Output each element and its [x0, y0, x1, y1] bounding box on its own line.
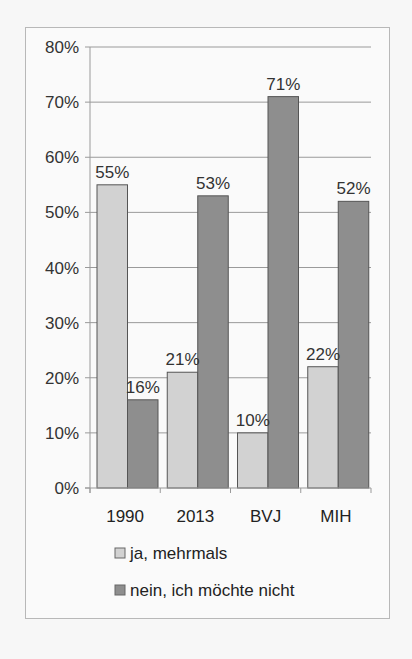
- x-category-label: 1990: [106, 507, 144, 526]
- y-tick-label: 0%: [54, 479, 79, 498]
- data-label: 10%: [236, 411, 270, 430]
- y-tick-label: 10%: [45, 424, 79, 443]
- legend-label: ja, mehrmals: [129, 544, 227, 563]
- bar-nein-ich-moechte-nicht: [268, 97, 299, 488]
- y-tick-label: 80%: [45, 38, 79, 57]
- bar-ja-mehrmals: [97, 185, 128, 488]
- data-label: 16%: [126, 378, 160, 397]
- bar-nein-ich-moechte-nicht: [128, 400, 159, 488]
- y-tick-label: 50%: [45, 203, 79, 222]
- x-category-label: 2013: [176, 507, 214, 526]
- x-category-label: BVJ: [250, 507, 281, 526]
- y-tick-label: 20%: [45, 369, 79, 388]
- legend: ja, mehrmalsnein, ich möchte nicht: [115, 544, 295, 600]
- y-tick-labels: 0%10%20%30%40%50%60%70%80%: [45, 38, 79, 498]
- y-tick-label: 70%: [45, 93, 79, 112]
- data-label: 52%: [336, 179, 370, 198]
- x-category-label: MIH: [320, 507, 351, 526]
- x-category-labels: 19902013BVJMIH: [106, 507, 351, 526]
- bar-nein-ich-moechte-nicht: [198, 196, 229, 488]
- y-tick-label: 30%: [45, 314, 79, 333]
- bars: [97, 97, 369, 488]
- data-label: 55%: [95, 163, 129, 182]
- bar-ja-mehrmals: [167, 372, 198, 488]
- data-label: 22%: [306, 345, 340, 364]
- bar-nein-ich-moechte-nicht: [338, 201, 369, 488]
- data-label: 71%: [266, 75, 300, 94]
- legend-label: nein, ich möchte nicht: [130, 581, 295, 600]
- y-tick-label: 60%: [45, 148, 79, 167]
- data-label: 53%: [196, 174, 230, 193]
- data-label: 21%: [165, 350, 199, 369]
- bar-chart: 0%10%20%30%40%50%60%70%80% 19902013BVJMI…: [0, 0, 412, 659]
- bar-ja-mehrmals: [238, 433, 269, 488]
- y-tick-label: 40%: [45, 259, 79, 278]
- legend-swatch: [115, 548, 125, 558]
- legend-swatch: [115, 585, 125, 595]
- bar-ja-mehrmals: [308, 367, 339, 488]
